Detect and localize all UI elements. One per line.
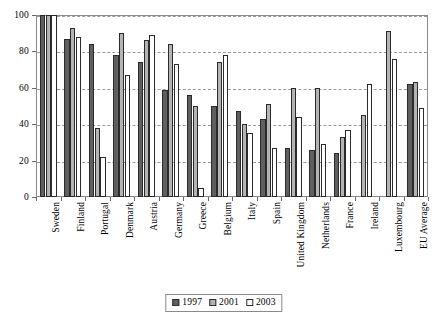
bar [296, 117, 301, 197]
x-tick-mark [183, 197, 184, 201]
bar [367, 84, 372, 197]
x-axis-label-text: Denmark [125, 202, 135, 238]
bar [413, 82, 418, 197]
bar-group [379, 15, 404, 197]
legend-label-1997: 1997 [182, 297, 202, 308]
x-axis-label-text: France [345, 202, 355, 228]
bar [51, 15, 56, 197]
y-tick-label-0: 0 [24, 192, 29, 202]
x-axis-label-text: Spain [272, 202, 282, 224]
legend-entry-2001: 2001 [209, 297, 239, 308]
x-axis-label-italy: Italy [244, 202, 254, 220]
bar [46, 15, 51, 197]
x-tick-mark [159, 197, 160, 201]
x-axis-label-greece: Greece [195, 202, 205, 230]
x-axis-label-text: Portugal [100, 202, 110, 235]
legend-entry-2003: 2003 [246, 297, 276, 308]
y-tick-label-80: 80 [19, 46, 29, 56]
bar [345, 130, 350, 197]
bar [285, 148, 290, 197]
bar [321, 144, 326, 197]
x-axis-label-text: Belgium [223, 202, 233, 235]
bar [291, 88, 296, 197]
x-axis-label-text: Luxembourg [394, 202, 404, 252]
x-axis-label-text: Sweden [51, 202, 61, 233]
bar [242, 124, 247, 197]
x-tick-mark [281, 197, 282, 201]
bar [236, 111, 241, 197]
x-axis-label-austria: Austria [146, 202, 156, 231]
bar-group [208, 15, 233, 197]
bar [100, 157, 105, 197]
x-axis-label-united-kingdom: United Kingdom [293, 202, 303, 268]
bar-group [257, 15, 282, 197]
bar [174, 64, 179, 197]
y-tick-label-60: 60 [19, 83, 29, 93]
x-axis-label-germany: Germany [171, 202, 181, 238]
bar [315, 88, 320, 197]
x-tick-mark [257, 197, 258, 201]
bar [361, 115, 366, 197]
x-axis-label-text: Austria [149, 202, 159, 231]
bar [217, 62, 222, 197]
x-tick-mark [85, 197, 86, 201]
bar [260, 119, 265, 197]
bar-group [306, 15, 331, 197]
bar [386, 31, 391, 197]
x-tick-mark [61, 197, 62, 201]
y-tick-label-20: 20 [19, 156, 29, 166]
bar [309, 150, 314, 197]
bar [407, 84, 412, 197]
x-tick-mark [232, 197, 233, 201]
x-tick-mark [36, 197, 37, 201]
bar-group [355, 15, 380, 197]
x-axis-label-eu-average: EU Average [416, 202, 426, 249]
bar [149, 35, 154, 197]
legend-label-2003: 2003 [256, 297, 276, 308]
bar [247, 133, 252, 197]
x-axis-labels: SwedenFinlandPortugalDenmarkAustriaGerma… [36, 202, 428, 287]
x-axis-label-spain: Spain [269, 202, 279, 224]
x-tick-mark [306, 197, 307, 201]
bar-group [159, 15, 184, 197]
x-axis-label-portugal: Portugal [97, 202, 107, 235]
bar [162, 90, 167, 197]
bar [40, 15, 45, 197]
bar-group [110, 15, 135, 197]
x-axis-label-france: France [342, 202, 352, 228]
bar [95, 128, 100, 197]
x-tick-mark [404, 197, 405, 201]
bar [223, 55, 228, 197]
x-tick-mark [355, 197, 356, 201]
bar [392, 59, 397, 197]
bar-chart: 020406080100 SwedenFinlandPortugalDenmar… [0, 0, 448, 321]
x-axis-label-text: EU Average [419, 202, 429, 249]
bar [198, 188, 203, 197]
x-tick-mark [379, 197, 380, 201]
x-axis-label-text: Italy [247, 202, 257, 220]
bar-group [36, 15, 61, 197]
bar [340, 137, 345, 197]
x-tick-mark [134, 197, 135, 201]
x-axis-label-text: United Kingdom [296, 202, 306, 268]
bar-group [232, 15, 257, 197]
x-tick-mark [208, 197, 209, 201]
x-axis-label-text: Germany [174, 202, 184, 238]
legend-swatch-1997 [172, 299, 179, 306]
legend-swatch-2003 [246, 299, 253, 306]
x-axis-label-text: Netherlands [321, 202, 331, 249]
bar-group [85, 15, 110, 197]
bar [76, 37, 81, 197]
bars-layer [36, 15, 428, 197]
bar-group [281, 15, 306, 197]
bar [211, 106, 216, 197]
x-axis-label-finland: Finland [73, 202, 83, 232]
bar-group [134, 15, 159, 197]
bar [64, 39, 69, 197]
bar [168, 44, 173, 197]
x-axis-label-sweden: Sweden [48, 202, 58, 233]
bar [272, 148, 277, 197]
x-axis-label-text: Greece [198, 202, 208, 230]
x-axis-label-luxembourg: Luxembourg [391, 202, 401, 252]
bar [266, 104, 271, 197]
